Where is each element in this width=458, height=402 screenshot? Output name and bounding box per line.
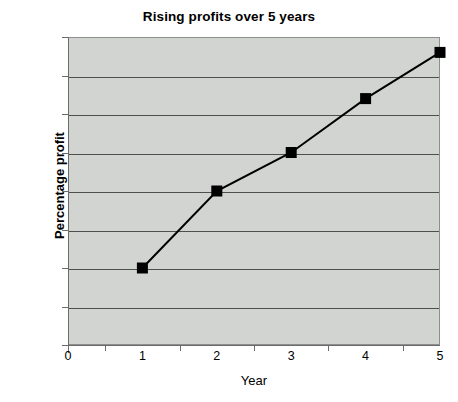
x-axis-tick-label: 5 xyxy=(410,350,458,363)
x-axis-tick-mark xyxy=(403,345,404,351)
data-point-marker xyxy=(360,93,371,104)
x-axis-tick-label: 1 xyxy=(112,350,172,363)
x-axis-tick-label: 0 xyxy=(38,350,98,363)
data-point-marker xyxy=(137,263,148,274)
x-axis-tick-mark xyxy=(254,345,255,351)
chart-title: Rising profits over 5 years xyxy=(0,9,458,24)
chart-figure: … … Rising profits over 5 years Percenta… xyxy=(0,0,458,402)
x-axis-tick-mark xyxy=(180,345,181,351)
data-line xyxy=(142,52,440,268)
x-axis-tick-mark xyxy=(328,345,329,351)
x-axis-tick-mark xyxy=(105,345,106,351)
y-axis-tick-mark xyxy=(62,345,68,346)
x-axis-tick-label: 2 xyxy=(187,350,247,363)
data-series-layer xyxy=(68,37,440,345)
x-axis-title: Year xyxy=(68,373,440,388)
data-point-marker xyxy=(211,186,222,197)
data-point-marker xyxy=(435,47,446,58)
y-axis-title: Percentage profit xyxy=(52,86,67,286)
x-axis-tick-label: 3 xyxy=(261,350,321,363)
data-point-marker xyxy=(286,147,297,158)
x-axis-tick-label: 4 xyxy=(336,350,396,363)
cropped-text-artifact: … … xyxy=(14,0,134,5)
